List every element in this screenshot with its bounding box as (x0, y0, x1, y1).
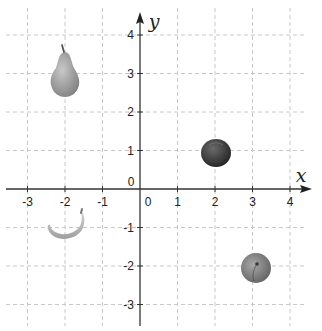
x-tick-label: 1 (174, 195, 181, 209)
x-axis-name: x (296, 164, 307, 186)
x-tick-label: 3 (249, 195, 256, 209)
banana-image (48, 209, 85, 239)
coordinate-plane: -3-2-11234 -3-2-11234 0 0 x y (0, 0, 322, 331)
apple-image (201, 139, 231, 167)
y-tick-label: -3 (123, 298, 134, 312)
y-tick-label: -2 (123, 259, 134, 273)
x-tick-label: 2 (212, 195, 219, 209)
y-tick-label: 4 (127, 28, 134, 42)
x-tick-label: -3 (22, 195, 33, 209)
pear-image (51, 45, 80, 97)
x-tick-label: 4 (287, 195, 294, 209)
x-tick-label: -2 (60, 195, 71, 209)
x-axis (6, 185, 312, 193)
y-tick-label: 3 (127, 67, 134, 81)
peach-image (241, 253, 271, 283)
x-tick-label: -1 (97, 195, 108, 209)
y-axis-name: y (148, 10, 160, 32)
origin-label-y: 0 (128, 175, 135, 189)
y-tick-label: 1 (127, 144, 134, 158)
y-tick-label: 2 (127, 105, 134, 119)
y-axis (136, 12, 144, 326)
y-tick-label: -1 (123, 221, 134, 235)
origin-label-x: 0 (145, 195, 152, 209)
